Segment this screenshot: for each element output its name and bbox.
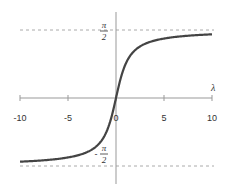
x-axis-label: λ [210, 82, 216, 93]
label-pi-over-2: π2 [100, 20, 108, 42]
x-tick-label: 10 [207, 113, 217, 123]
x-tick-label: -10 [13, 113, 26, 123]
fraction-denominator: 2 [102, 155, 107, 165]
fraction-numerator: π [102, 143, 107, 153]
x-tick-label: 5 [161, 113, 166, 123]
minus-sign: - [95, 149, 98, 159]
arctan-chart: -10-50510 π2π2- λ [0, 0, 229, 194]
fraction-denominator: 2 [102, 32, 107, 42]
x-tick-label: -5 [64, 113, 72, 123]
x-tick-label: 0 [113, 113, 118, 123]
asymptote-labels: π2π2- [95, 20, 109, 165]
fraction-numerator: π [102, 20, 107, 30]
